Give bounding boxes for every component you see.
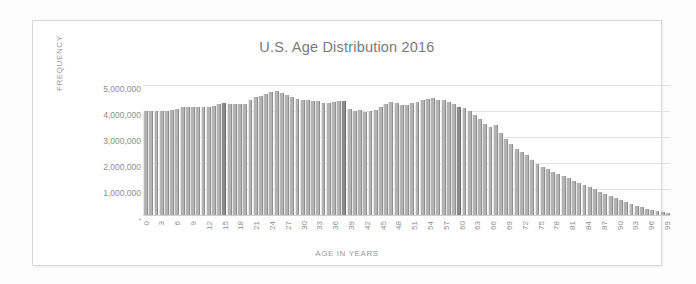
bar (289, 97, 294, 215)
bar (232, 104, 237, 215)
y-axis-tick-label: 5,000,000 (103, 84, 141, 94)
bar (383, 104, 388, 215)
bar (545, 169, 550, 215)
bar (587, 187, 592, 215)
bar (237, 104, 242, 215)
bar (159, 111, 164, 215)
y-axis-tick-label: 2,000,000 (103, 162, 141, 172)
bar (639, 207, 644, 215)
bar (420, 100, 425, 215)
bar (174, 109, 179, 215)
bar (441, 100, 446, 215)
bar (508, 144, 513, 215)
bar (248, 100, 253, 215)
bar (300, 100, 305, 215)
bar (623, 202, 628, 215)
bar (227, 104, 232, 215)
y-axis-title: FREQUENCY (55, 35, 64, 91)
y-axis-tick-labels: -1,000,0002,000,0003,000,0004,000,0005,0… (79, 61, 141, 224)
bar (274, 91, 279, 215)
bar (493, 125, 498, 215)
bar (550, 172, 555, 215)
bar (503, 139, 508, 215)
bar (211, 106, 216, 215)
bar (524, 155, 529, 215)
chart-container: U.S. Age Distribution 2016 FREQUENCY -1,… (32, 20, 662, 266)
bar (576, 183, 581, 215)
bar (608, 196, 613, 215)
bar (169, 110, 174, 215)
bar (305, 100, 310, 215)
bar (347, 109, 352, 215)
bar (477, 119, 482, 215)
bar (315, 101, 320, 215)
bar (498, 133, 503, 215)
bar (195, 107, 200, 215)
bar (242, 104, 247, 215)
x-axis-tick-label: 99 (662, 221, 671, 230)
bar (357, 110, 362, 215)
bar (341, 101, 346, 215)
screenshot-page: U.S. Age Distribution 2016 FREQUENCY -1,… (0, 0, 696, 284)
chart-title: U.S. Age Distribution 2016 (33, 39, 661, 55)
bar (571, 181, 576, 215)
bar (430, 98, 435, 215)
bar (388, 102, 393, 215)
bar (143, 111, 148, 215)
bar (185, 107, 190, 215)
x-axis-slot: 99 (664, 220, 669, 254)
bar (394, 103, 399, 215)
y-axis-tick-label: 1,000,000 (103, 188, 141, 198)
bar (540, 167, 545, 215)
bar (216, 104, 221, 215)
bar (409, 103, 414, 215)
bar (253, 97, 258, 215)
bar (404, 105, 409, 215)
bar (295, 99, 300, 215)
x-axis-line (143, 215, 670, 216)
bar (446, 102, 451, 215)
bar (148, 111, 153, 215)
bar (602, 194, 607, 215)
bar (221, 103, 226, 215)
bar (331, 102, 336, 215)
bar (321, 103, 326, 215)
y-axis-tick-label: 4,000,000 (103, 110, 141, 120)
bar (555, 174, 560, 215)
bar (310, 101, 315, 215)
bar (462, 108, 467, 215)
bar (258, 96, 263, 215)
bar (514, 149, 519, 215)
bar (336, 101, 341, 215)
x-axis-title: AGE IN YEARS (33, 249, 661, 258)
bar (284, 95, 289, 215)
bar (456, 107, 461, 215)
bar (618, 200, 623, 215)
bar (435, 100, 440, 215)
bar (373, 110, 378, 215)
bar (519, 152, 524, 215)
bar (326, 103, 331, 215)
bar (378, 107, 383, 215)
bar (368, 111, 373, 215)
bar (451, 104, 456, 215)
bar (592, 189, 597, 215)
bar (279, 93, 284, 215)
bar (154, 111, 159, 215)
bar (190, 107, 195, 215)
bar (362, 112, 367, 215)
bar (268, 92, 273, 215)
bar (180, 107, 185, 215)
bar (425, 99, 430, 215)
bar (629, 204, 634, 215)
bar (399, 105, 404, 215)
bar (415, 102, 420, 215)
bar (597, 192, 602, 215)
bar (561, 176, 566, 215)
y-axis-tick-label: 3,000,000 (103, 136, 141, 146)
bar (472, 115, 477, 215)
bar (488, 127, 493, 215)
bar (482, 124, 487, 215)
plot-area (143, 69, 670, 216)
bar (201, 107, 206, 215)
